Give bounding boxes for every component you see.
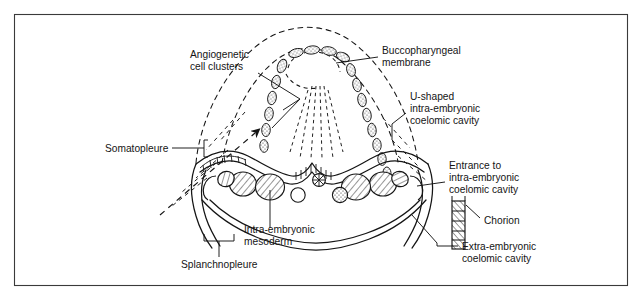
label-angiogenetic: Angiogenetic cell clusters	[190, 49, 249, 72]
notochord-spoked-circle	[313, 174, 326, 187]
label-extra-embryonic: Extra-embryonic coelomic cavity	[462, 241, 536, 264]
label-angiogenetic-line1: Angiogenetic	[190, 49, 249, 60]
label-mesoderm-line2: mesoderm	[244, 236, 292, 247]
label-u-shaped-line3: coelomic cavity	[410, 115, 480, 126]
stippled-vesicle	[332, 187, 347, 202]
label-u-shaped-line1: U-shaped	[410, 91, 455, 102]
label-splanchnopleure-line1: Splanchnopleure	[181, 259, 258, 270]
label-splanchnopleure: Splanchnopleure	[181, 259, 258, 270]
label-somatopleure: Somatopleure	[105, 143, 169, 154]
embryology-figure: Angiogenetic cell clusters Buccopharynge…	[0, 0, 642, 306]
plain-vesicle	[291, 188, 305, 202]
label-somatopleure-line1: Somatopleure	[105, 143, 169, 154]
label-chorion-line1: Chorion	[484, 215, 520, 226]
label-extra-embryonic-line1: Extra-embryonic	[462, 241, 536, 252]
label-entrance-line3: coelomic cavity	[449, 184, 519, 195]
label-entrance-line1: Entrance to	[449, 160, 501, 171]
label-mesoderm-line1: Intra-embryonic	[244, 224, 315, 235]
label-angiogenetic-line2: cell clusters	[190, 61, 243, 72]
label-chorion: Chorion	[484, 215, 520, 226]
label-u-shaped-line2: intra-embryonic	[410, 103, 480, 114]
label-buccopharyngeal-line2: membrane	[382, 57, 431, 68]
label-buccopharyngeal-line1: Buccopharyngeal	[382, 45, 461, 56]
label-extra-embryonic-line2: coelomic cavity	[462, 253, 532, 264]
label-entrance-line2: intra-embryonic	[449, 172, 519, 183]
figure-root: Angiogenetic cell clusters Buccopharynge…	[0, 0, 642, 306]
